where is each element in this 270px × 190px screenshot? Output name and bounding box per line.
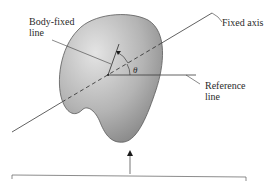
fixed-axis-label: Fixed axis [222, 17, 263, 28]
rigid-body-shape [59, 15, 162, 143]
bottom-bracket [12, 175, 246, 181]
arrow-up-icon [127, 150, 133, 156]
reference-line-leader [186, 75, 200, 84]
pivot-point [107, 74, 109, 76]
body-fixed-line-label-line2: line [29, 27, 75, 38]
body-fixed-line-label-line1: Body-fixed [29, 16, 75, 27]
fixed-axis-leader [212, 13, 222, 22]
theta-angle-label: θ [133, 65, 137, 76]
reference-line-label-line1: Reference [205, 80, 246, 91]
rigid-body-rotation-diagram: Body-fixed line Fixed axis Reference lin… [0, 0, 270, 190]
reference-line-label: Reference line [205, 80, 246, 102]
body-fixed-line-label: Body-fixed line [29, 16, 75, 38]
reference-line-label-line2: line [205, 91, 246, 102]
